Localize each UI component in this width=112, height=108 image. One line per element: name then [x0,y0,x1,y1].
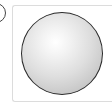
panel-label-badge: a [0,3,6,23]
figure-panel: a [0,0,112,108]
sphere-shape [21,12,103,95]
